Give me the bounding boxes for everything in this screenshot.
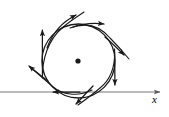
phase-portrait-canvas [0, 0, 169, 117]
arrow-down-left-diagonal-bottom [76, 86, 93, 104]
spiral-arc-lower-left [30, 67, 92, 94]
arrow-up-left-diagonal [29, 66, 48, 81]
x-axis-label: x [152, 94, 157, 105]
phase-portrait-figure: x [0, 0, 169, 117]
equilibrium-center-dot [75, 58, 80, 63]
